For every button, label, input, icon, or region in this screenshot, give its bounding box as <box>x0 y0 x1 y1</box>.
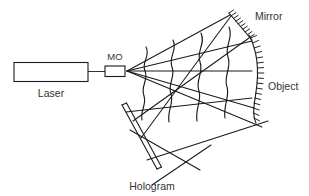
object-element <box>249 35 264 123</box>
hologram-label: Hologram <box>129 180 175 192</box>
hologram-face-front <box>122 105 157 169</box>
mirror-element <box>229 10 254 40</box>
laser-body <box>14 63 88 82</box>
diagram-canvas: Laser MO Mirror Object Hologram <box>0 0 309 196</box>
mirror-secondary-ray <box>133 38 249 121</box>
object-scatter-ray-2 <box>147 121 268 160</box>
mirror-reflected-ray <box>141 16 231 138</box>
mo-label: MO <box>107 51 122 62</box>
mirror-hatching <box>229 10 254 37</box>
wavefront-3 <box>197 33 203 121</box>
hologram-cross-ray <box>130 130 200 170</box>
wavefront-4 <box>225 27 231 118</box>
hologram-edge-top <box>122 103 127 105</box>
hologram-edge-bottom <box>157 167 162 169</box>
mirror-label: Mirror <box>255 10 283 22</box>
wavefront-1 <box>142 47 148 120</box>
microscope-objective-body <box>105 66 125 77</box>
object-label: Object <box>268 80 298 92</box>
wavefront-2 <box>169 40 175 122</box>
object-surface <box>249 35 258 123</box>
holography-setup-figure: Laser MO Mirror Object Hologram <box>0 0 309 196</box>
ray-to-mirror-base <box>127 41 252 71</box>
laser-label: Laser <box>38 87 65 99</box>
